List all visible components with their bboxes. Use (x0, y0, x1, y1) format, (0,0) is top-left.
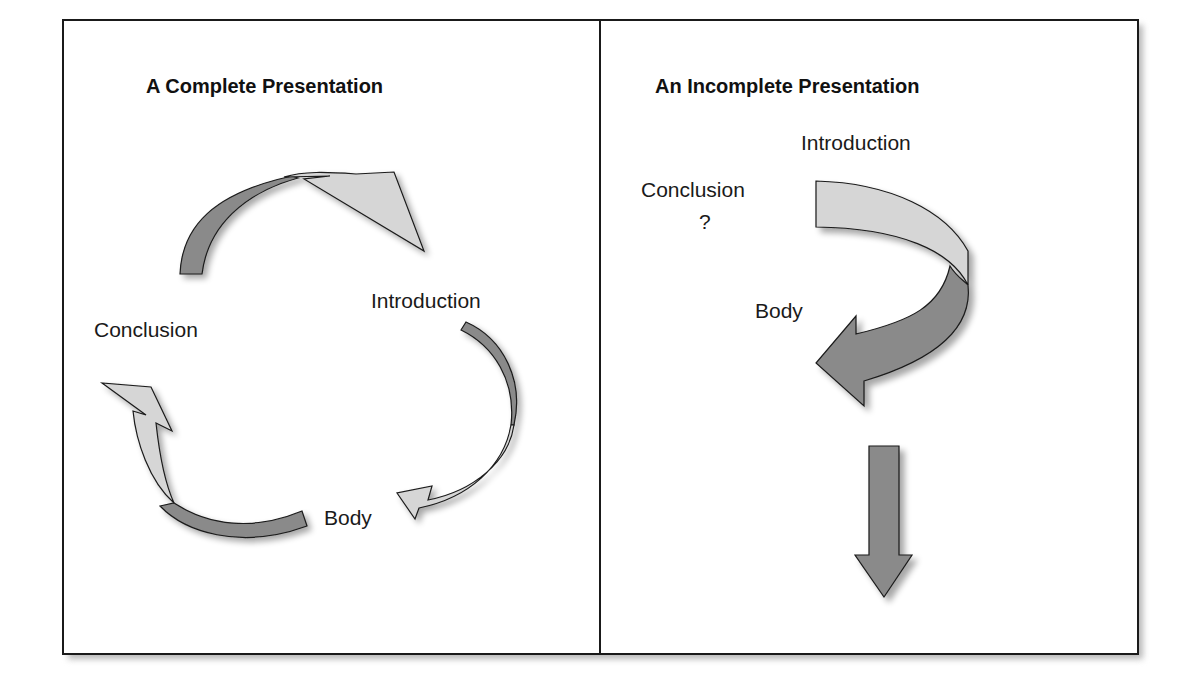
arrow-body-to-conclusion (102, 383, 307, 537)
arrow-top-light (816, 181, 968, 285)
figure-frame: A Complete Presentation (62, 19, 1139, 655)
arrow-head-light (397, 425, 514, 519)
arrow-head-light (284, 172, 424, 251)
label-introduction: Introduction (371, 289, 481, 313)
panel-complete-presentation: A Complete Presentation (64, 21, 599, 653)
label-body: Body (324, 506, 372, 530)
arrow-tail-dark (160, 503, 307, 537)
arrow-tail-dark (180, 176, 298, 274)
incomplete-arrows (601, 21, 1137, 653)
arrow-straight-down (855, 446, 912, 597)
panel-incomplete-presentation: An Incomplete Presentation Introduction … (601, 21, 1137, 653)
arrow-introduction-to-body (816, 181, 968, 406)
arrow-tail-dark (461, 322, 517, 425)
arrow-conclusion-to-introduction (180, 172, 424, 274)
arrow-head-dark (816, 266, 968, 406)
arrow-introduction-to-body (397, 322, 517, 519)
arrow-head-light (102, 383, 174, 503)
down-arrow-shape (855, 446, 912, 597)
label-conclusion: Conclusion (94, 318, 198, 342)
